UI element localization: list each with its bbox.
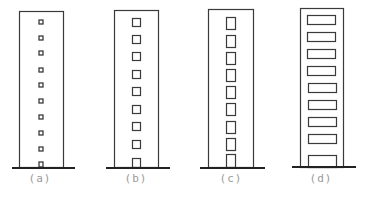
building-elevations-figure (0, 0, 365, 197)
label-c: (c) (211, 172, 251, 185)
building-b-outline (115, 11, 159, 168)
building-b-windows (133, 19, 141, 168)
building-c-windows (227, 18, 236, 168)
building-a-outline (20, 12, 64, 168)
building-b (106, 11, 170, 169)
building-d-windows (308, 16, 337, 168)
label-d: (d) (301, 172, 341, 185)
building-c (200, 10, 265, 169)
building-d (292, 9, 356, 168)
building-a (12, 12, 75, 169)
label-a: (a) (20, 172, 60, 185)
building-a-windows (39, 20, 43, 167)
label-b: (b) (116, 172, 156, 185)
building-c-outline (209, 10, 254, 168)
